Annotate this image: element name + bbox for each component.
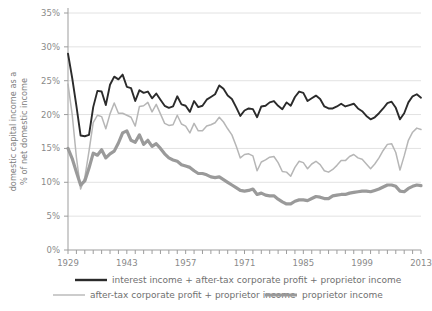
- x-tick-label: 1943: [116, 258, 138, 268]
- x-tick-label: 1957: [175, 258, 197, 268]
- y-tick-label: 30%: [41, 42, 60, 52]
- x-tick-label: 1999: [351, 258, 373, 268]
- x-tick-label: 1929: [57, 258, 79, 268]
- y-tick-label: 25%: [41, 76, 60, 86]
- x-tick-label: 2013: [410, 258, 432, 268]
- y-tick-label: 0%: [47, 245, 61, 255]
- y-axis-label: domestic capital income as a% of net dom…: [8, 72, 29, 192]
- y-tick-label: 15%: [41, 143, 60, 153]
- x-tick-label: 1985: [293, 258, 315, 268]
- y-tick-label: 5%: [47, 211, 61, 221]
- legend-label-2: proprietor income: [302, 290, 383, 300]
- line-chart: 0%5%10%15%20%25%30%35% 19291943195719711…: [0, 0, 432, 311]
- y-tick-label: 35%: [41, 8, 60, 18]
- legend-label-0: interest income + after-tax corporate pr…: [112, 275, 402, 285]
- y-axis-label-line-1: % of net domestic income: [19, 78, 29, 185]
- y-tick-label: 10%: [41, 177, 60, 187]
- x-tick-label: 1971: [234, 258, 256, 268]
- chart-container: 0%5%10%15%20%25%30%35% 19291943195719711…: [0, 0, 432, 311]
- y-tick-label: 20%: [41, 110, 60, 120]
- y-axis-label-line-0: domestic capital income as a: [8, 72, 18, 192]
